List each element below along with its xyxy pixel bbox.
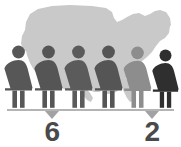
female-figure-icon (151, 49, 180, 108)
female-figure-icon (93, 45, 124, 108)
female-figure-6 (151, 49, 180, 108)
female-figure-icon (63, 45, 94, 108)
female-figure-4 (93, 45, 124, 108)
count-label-group-1: 6 (32, 117, 72, 147)
female-figure-2 (33, 45, 64, 108)
female-figure-icon (122, 46, 153, 108)
female-figure-icon (33, 45, 64, 108)
female-figure-1 (3, 45, 34, 108)
female-figure-5 (122, 46, 153, 108)
infographic-root: 6 2 (0, 0, 181, 147)
female-figure-3 (63, 45, 94, 108)
female-figure-icon (3, 45, 34, 108)
count-label-group-2: 2 (132, 117, 172, 147)
